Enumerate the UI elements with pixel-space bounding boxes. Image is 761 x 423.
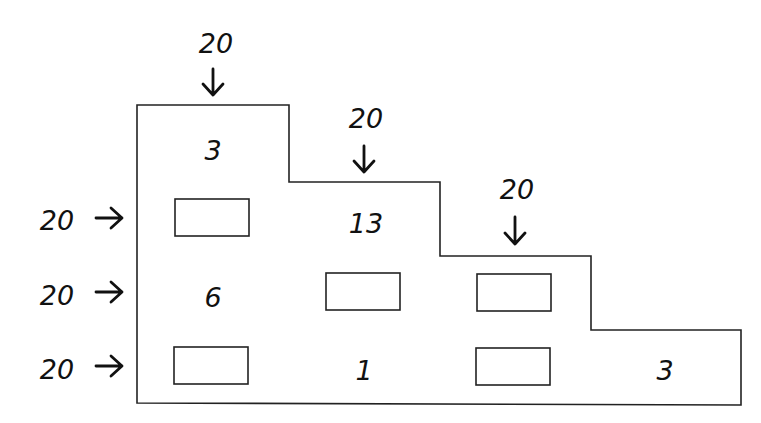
answer-box[interactable] [175, 199, 249, 236]
arrow-right-icon [96, 282, 122, 302]
row-sum-label: 20 [40, 354, 74, 385]
row-sum-label: 20 [40, 280, 74, 311]
cell-value: 1 [355, 355, 372, 386]
cell-value: 6 [204, 282, 221, 313]
arrow-down-icon [354, 146, 374, 172]
answer-box[interactable] [476, 348, 550, 385]
column-sum-label: 20 [199, 28, 233, 59]
column-sum-label: 20 [349, 103, 383, 134]
cell-value: 13 [349, 208, 383, 239]
column-sum-label: 20 [500, 174, 534, 205]
column-sum-1: 20 [199, 28, 233, 96]
arrow-right-icon [96, 208, 122, 228]
row-sum-1: 20 [40, 205, 122, 236]
cell-value: 3 [656, 355, 673, 386]
row-sum-2: 20 [40, 280, 122, 311]
arrow-down-icon [203, 69, 223, 95]
staircase-sum-puzzle: 20 20 20 20 20 20 3 13 6 1 3 [0, 0, 761, 423]
row-sum-3: 20 [40, 354, 122, 385]
column-sum-2: 20 [349, 103, 383, 173]
answer-box[interactable] [326, 273, 400, 310]
cell-value: 3 [204, 135, 221, 166]
arrow-right-icon [96, 356, 122, 376]
row-sum-label: 20 [40, 205, 74, 236]
answer-box[interactable] [174, 347, 248, 384]
answer-box[interactable] [477, 274, 551, 311]
arrow-down-icon [505, 217, 525, 244]
column-sum-3: 20 [500, 174, 534, 245]
